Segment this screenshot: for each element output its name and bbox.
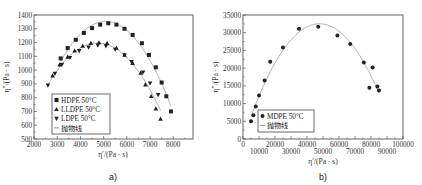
data-point-triangle-up <box>154 106 159 110</box>
chart-panel-b: 0500010000150002000025000300003500001000… <box>211 12 414 183</box>
data-point-triangle-down <box>96 44 101 48</box>
data-point-square <box>123 27 127 31</box>
y-tick-label: 800 <box>21 94 32 102</box>
y-tick-label: 1200 <box>18 39 33 47</box>
y-tick-label: 35000 <box>223 12 241 20</box>
legend: HDPE 50°CLLDPE 50°CLDPE 50°C抛物线 <box>52 94 110 134</box>
data-point-triangle-down <box>104 44 109 48</box>
data-point-triangle-down <box>148 81 153 85</box>
panel-label: a) <box>109 172 117 182</box>
x-tick-label: 5000 <box>96 141 111 149</box>
data-point-square <box>82 31 86 35</box>
x-tick-label: 50000 <box>314 148 332 156</box>
x-axis-label: η′/(Pa · s) <box>308 157 338 166</box>
y-tick-label: 700 <box>21 108 32 116</box>
data-point-circle <box>249 119 253 123</box>
data-point-circle <box>375 85 379 89</box>
data-point-square <box>131 33 135 37</box>
data-point-circle <box>268 60 272 64</box>
x-tick-label: 7000 <box>143 141 158 149</box>
data-point-circle <box>367 86 371 90</box>
x-tick-label: 8000 <box>166 141 181 149</box>
data-point-triangle-down <box>77 49 82 53</box>
data-point-circle <box>263 79 267 83</box>
legend-entry: LLDPE 50°C <box>61 106 100 114</box>
y-tick-label: 25000 <box>223 47 241 55</box>
data-point-triangle-down <box>156 93 161 97</box>
x-tick-label: 2000 <box>27 141 42 149</box>
x-tick-label: 10000 <box>250 148 268 156</box>
y-tick-label: 1300 <box>18 25 33 33</box>
figure: 5006007008009001000110012001300140020003… <box>0 0 422 185</box>
data-point-square <box>66 46 70 50</box>
data-point-square <box>147 53 151 57</box>
parabola-fit-line <box>251 24 379 117</box>
data-point-square <box>90 26 94 30</box>
legend-entry: 抛物线 <box>267 121 288 130</box>
parabola-fit-line <box>61 22 171 106</box>
data-point-circle <box>254 104 258 108</box>
data-point-triangle-up <box>158 117 163 121</box>
panel-label: b) <box>319 172 327 182</box>
data-point-circle <box>371 65 375 69</box>
x-tick-label: 0 <box>241 141 245 149</box>
y-tick-label: 900 <box>21 80 32 88</box>
data-point-square <box>106 21 110 25</box>
chart-panel-a: 5006007008009001000110012001300140020003… <box>2 12 193 183</box>
x-tick-label: 100000 <box>392 141 414 149</box>
data-point-circle <box>362 60 366 64</box>
data-point-circle <box>257 93 261 97</box>
y-tick-label: 1000 <box>18 67 33 75</box>
legend-entry: MDPE 50°C <box>267 113 304 121</box>
y-tick-label: 600 <box>21 122 32 130</box>
x-tick-label: 30000 <box>282 148 300 156</box>
data-point-circle <box>297 27 301 31</box>
data-point-square <box>160 81 164 85</box>
data-point-circle <box>281 46 285 50</box>
data-point-circle <box>251 113 255 117</box>
y-tick-label: 15000 <box>223 82 241 90</box>
data-point-circle <box>348 42 352 46</box>
data-point-circle <box>261 114 265 118</box>
x-tick-label: 6000 <box>120 141 135 149</box>
data-point-square <box>55 98 59 102</box>
data-point-square <box>140 41 144 45</box>
data-point-circle <box>335 34 339 38</box>
data-point-square <box>98 23 102 27</box>
data-point-triangle-down <box>86 46 91 50</box>
y-tick-label: 1100 <box>18 53 33 61</box>
data-point-square <box>164 94 168 98</box>
legend: MDPE 50°C抛物线 <box>258 110 314 132</box>
data-point-square <box>154 65 158 69</box>
y-axis-label: η″/(Pa · s) <box>2 61 11 92</box>
data-point-triangle-down <box>46 83 51 87</box>
x-axis-label: η′/(Pa · s) <box>98 150 128 159</box>
y-tick-label: 10000 <box>223 100 241 108</box>
data-point-square <box>59 56 63 60</box>
x-tick-label: 4000 <box>73 141 88 149</box>
legend-entry: HDPE 50°C <box>61 97 97 105</box>
y-tick-label: 30000 <box>223 29 241 37</box>
y-axis-label: η″/(Pa · s) <box>211 61 220 92</box>
series-ldpe <box>46 44 161 98</box>
data-point-square <box>74 38 78 42</box>
y-tick-label: 5000 <box>227 118 242 126</box>
data-point-circle <box>316 25 320 29</box>
legend-entry: LDPE 50°C <box>61 115 96 123</box>
y-tick-label: 20000 <box>223 65 241 73</box>
x-tick-label: 70000 <box>346 148 364 156</box>
data-point-circle <box>377 88 381 92</box>
y-tick-label: 1400 <box>18 12 33 20</box>
data-point-square <box>169 109 173 113</box>
x-tick-label: 3000 <box>50 141 65 149</box>
data-point-square <box>114 23 118 27</box>
x-tick-label: 90000 <box>378 148 396 156</box>
legend-entry: 抛物线 <box>61 124 82 133</box>
